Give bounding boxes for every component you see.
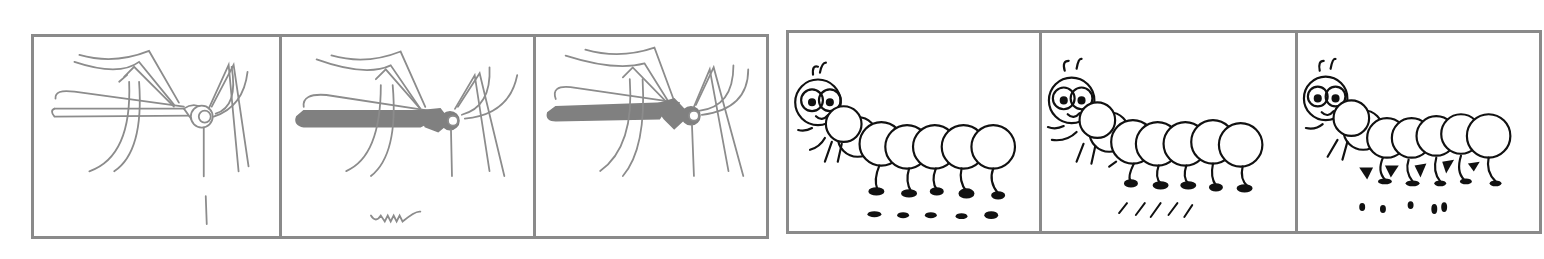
mosquito-panel-1 xyxy=(34,37,279,236)
mosquito-filled-icon xyxy=(536,37,766,236)
caterpillar-icon xyxy=(1042,33,1295,231)
mosquito-outline-icon xyxy=(34,37,279,236)
caterpillar-icon xyxy=(789,33,1039,231)
dash-tracks xyxy=(867,211,998,219)
slash-tracks xyxy=(1119,203,1192,217)
caterpillar-panel-1 xyxy=(789,33,1039,231)
caterpillar-panel-2 xyxy=(1039,33,1295,231)
dot-tracks xyxy=(1359,201,1447,214)
mosquito-panel-2 xyxy=(279,37,533,236)
caterpillar-icon xyxy=(1298,33,1539,231)
caterpillar-strip xyxy=(786,30,1542,234)
mosquito-panel-3 xyxy=(533,37,766,236)
caterpillar-panel-3 xyxy=(1295,33,1539,231)
mosquito-strip xyxy=(31,34,769,239)
mosquito-filled-icon xyxy=(282,37,533,236)
